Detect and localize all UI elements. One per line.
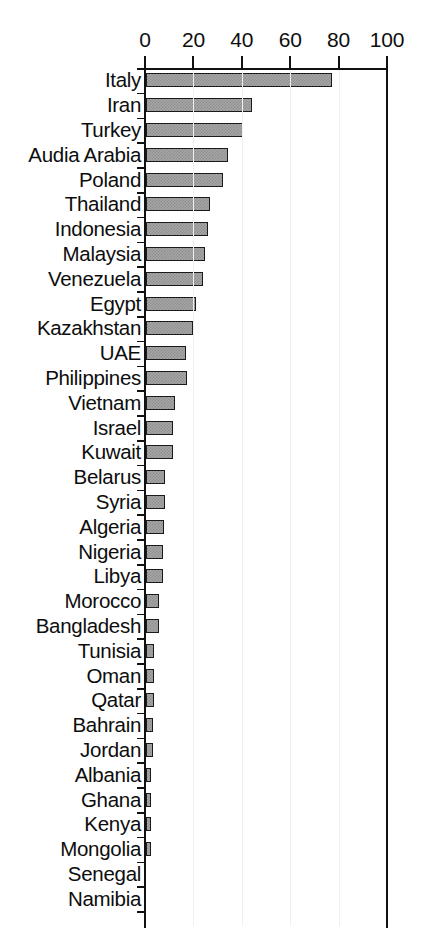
bar-row: Malaysia bbox=[0, 242, 425, 267]
bar-row: Italy bbox=[0, 68, 425, 93]
bar-row: Bangladesh bbox=[0, 614, 425, 639]
x-axis-tick bbox=[289, 56, 291, 69]
category-label: Nigeria bbox=[78, 541, 141, 563]
category-label: Israel bbox=[93, 417, 141, 439]
category-label: Indonesia bbox=[55, 218, 141, 240]
bar-row: Israel bbox=[0, 415, 425, 440]
x-axis-tick bbox=[241, 56, 243, 69]
x-axis-tick-labels: 020406080100 bbox=[0, 28, 425, 58]
category-label: Libya bbox=[93, 565, 141, 587]
x-axis-tick-label: 60 bbox=[279, 28, 302, 52]
category-label: Turkey bbox=[81, 119, 141, 141]
category-label: Iran bbox=[107, 94, 141, 116]
bar-row: Vietnam bbox=[0, 390, 425, 415]
bar bbox=[146, 222, 208, 236]
bar bbox=[146, 594, 159, 608]
bar bbox=[146, 569, 163, 583]
bar-row: Oman bbox=[0, 663, 425, 688]
bar-row: Poland bbox=[0, 167, 425, 192]
bar bbox=[146, 173, 223, 187]
bar bbox=[146, 693, 154, 707]
bar bbox=[146, 445, 173, 459]
bar-row: Tunisia bbox=[0, 638, 425, 663]
category-label: Namibia bbox=[68, 888, 141, 910]
grid-line bbox=[290, 70, 291, 926]
bar-row: Qatar bbox=[0, 688, 425, 713]
bar bbox=[146, 247, 205, 261]
category-label: Tunisia bbox=[78, 640, 141, 662]
category-label: Philippines bbox=[45, 367, 141, 389]
bar bbox=[146, 421, 173, 435]
bar-row: Venezuela bbox=[0, 266, 425, 291]
bar-rows: ItalyIranTurkeyAudia ArabiaPolandThailan… bbox=[0, 68, 425, 911]
x-axis-tick bbox=[144, 56, 146, 69]
category-label: Egypt bbox=[90, 293, 141, 315]
bar bbox=[146, 817, 151, 831]
category-label: Thailand bbox=[65, 193, 141, 215]
bar-row: Albania bbox=[0, 762, 425, 787]
bar-row: Libya bbox=[0, 564, 425, 589]
bar bbox=[146, 545, 163, 559]
bar-row: Turkey bbox=[0, 118, 425, 143]
bar bbox=[146, 371, 187, 385]
bar-chart: 020406080100 ItalyIranTurkeyAudia Arabia… bbox=[0, 0, 425, 944]
category-label: Vietnam bbox=[68, 392, 141, 414]
bar bbox=[146, 470, 165, 484]
grid-line bbox=[339, 70, 340, 926]
bar bbox=[146, 718, 153, 732]
bar-row: Audia Arabia bbox=[0, 142, 425, 167]
category-label: Bangladesh bbox=[36, 615, 141, 637]
category-label: Mongolia bbox=[60, 838, 141, 860]
category-label: Oman bbox=[86, 665, 141, 687]
bar bbox=[146, 495, 165, 509]
bar-row: Mongolia bbox=[0, 837, 425, 862]
bar-row: Thailand bbox=[0, 192, 425, 217]
x-axis-tick-label: 0 bbox=[139, 28, 150, 52]
bar-row: Bahrain bbox=[0, 713, 425, 738]
x-axis-tick-label: 100 bbox=[370, 28, 404, 52]
category-label: Poland bbox=[79, 169, 141, 191]
x-axis-tick-label: 40 bbox=[230, 28, 253, 52]
bar bbox=[146, 644, 154, 658]
bar-row: Kuwait bbox=[0, 440, 425, 465]
category-label: Qatar bbox=[91, 689, 141, 711]
x-axis-tick bbox=[386, 56, 388, 69]
category-label: Malaysia bbox=[63, 243, 142, 265]
bar-row: Ghana bbox=[0, 787, 425, 812]
bar bbox=[146, 842, 151, 856]
bar-row: Nigeria bbox=[0, 539, 425, 564]
bar-row: Indonesia bbox=[0, 217, 425, 242]
bar-row: Jordan bbox=[0, 738, 425, 763]
y-axis-tick bbox=[137, 911, 145, 913]
bar-row: Algeria bbox=[0, 514, 425, 539]
bar bbox=[146, 321, 193, 335]
bar-row: UAE bbox=[0, 341, 425, 366]
bar-row: Morocco bbox=[0, 589, 425, 614]
bar-row: Belarus bbox=[0, 465, 425, 490]
bar bbox=[146, 520, 164, 534]
category-label: Syria bbox=[96, 491, 141, 513]
bar bbox=[146, 793, 151, 807]
bar bbox=[146, 346, 186, 360]
bar-row: Egypt bbox=[0, 291, 425, 316]
x-axis-tick bbox=[338, 56, 340, 69]
category-label: Kenya bbox=[84, 813, 141, 835]
bar-row: Kazakhstan bbox=[0, 316, 425, 341]
category-label: Belarus bbox=[74, 466, 141, 488]
x-axis-tick-label: 80 bbox=[327, 28, 350, 52]
bar bbox=[146, 619, 159, 633]
bar bbox=[146, 148, 228, 162]
bar bbox=[146, 197, 210, 211]
category-label: Venezuela bbox=[48, 268, 141, 290]
category-label: Kazakhstan bbox=[37, 317, 141, 339]
category-label: Ghana bbox=[81, 789, 141, 811]
bar-row: Senegal bbox=[0, 862, 425, 887]
bar bbox=[146, 768, 151, 782]
category-label: Algeria bbox=[79, 516, 141, 538]
bar bbox=[146, 297, 196, 311]
bar bbox=[146, 743, 153, 757]
category-label: UAE bbox=[100, 342, 141, 364]
grid-line bbox=[242, 70, 243, 926]
bar bbox=[146, 123, 243, 137]
bar-row: Syria bbox=[0, 490, 425, 515]
